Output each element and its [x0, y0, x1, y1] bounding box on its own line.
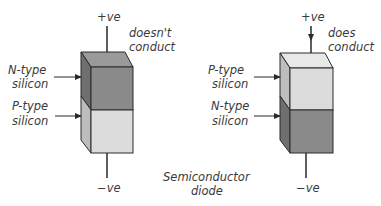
- left-n-block-front-face: [91, 67, 133, 110]
- right-bottom-layer-label-2: silicon: [212, 114, 248, 128]
- right-n-block-front-face: [290, 110, 333, 153]
- right-p-block-front-face: [290, 68, 333, 110]
- left-bottom-layer-label-2: silicon: [12, 114, 48, 128]
- right-top-layer-label-1: P-type: [208, 63, 244, 77]
- diode-diagram: +ve doesn't conduct N-type silicon P-typ…: [0, 0, 381, 206]
- left-top-layer-label-2: silicon: [12, 77, 48, 91]
- right-top-layer-label-2: silicon: [212, 77, 248, 91]
- left-bottom-terminal-label: −ve: [97, 181, 121, 195]
- caption-line-2: diode: [191, 184, 223, 198]
- right-top-terminal-label: +ve: [301, 10, 325, 24]
- caption-line-1: Semiconductor: [163, 170, 251, 184]
- right-status-line-2: conduct: [328, 40, 375, 54]
- right-bottom-terminal-label: −ve: [296, 181, 320, 195]
- left-top-terminal-label: +ve: [97, 10, 121, 24]
- right-diode: +ve does conduct P-type silicon N-type s…: [208, 10, 375, 195]
- left-bottom-layer-label-1: P-type: [12, 99, 48, 113]
- left-p-block-front-face: [91, 110, 133, 153]
- right-current-arrow-icon: [308, 34, 314, 41]
- left-status-line-1: doesn't: [129, 26, 172, 40]
- left-top-layer-label-1: N-type: [8, 63, 46, 77]
- right-status-line-1: does: [328, 26, 355, 40]
- right-bottom-layer-label-1: N-type: [211, 99, 249, 113]
- left-diode: +ve doesn't conduct N-type silicon P-typ…: [8, 10, 176, 195]
- left-status-line-2: conduct: [129, 40, 176, 54]
